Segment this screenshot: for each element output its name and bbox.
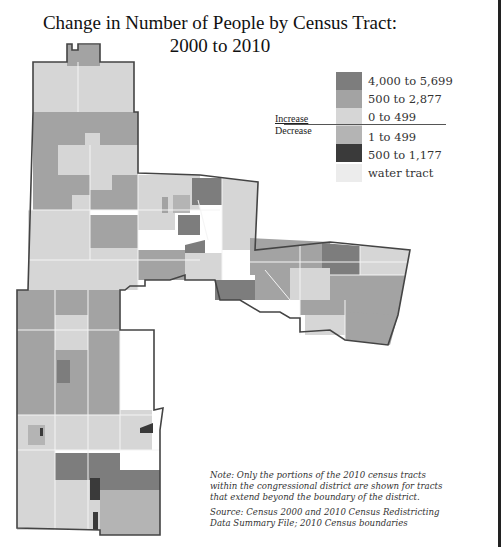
legend-label: 0 to 499: [368, 110, 416, 124]
legend-swatch-water: [336, 164, 362, 182]
map-source: Source: Census 2000 and 2010 Census Redi…: [210, 507, 490, 529]
increase-label: Increase: [275, 113, 308, 124]
legend-label: water tract: [368, 166, 433, 180]
legend-label: 1 to 499: [368, 130, 416, 144]
legend-label: 500 to 1,177: [368, 148, 442, 162]
decrease-label: Decrease: [275, 125, 312, 136]
legend-swatch-dec-500-1177: [336, 144, 362, 162]
legend-swatch-500-2877: [336, 90, 362, 108]
legend-swatch-4000-5699: [336, 72, 362, 90]
legend-label: 500 to 2,877: [368, 92, 442, 106]
legend-swatch-dec-1-499: [336, 126, 362, 144]
legend-label: 4,000 to 5,699: [368, 74, 453, 88]
map-note: Note: Only the portions of the 2010 cens…: [210, 470, 490, 503]
